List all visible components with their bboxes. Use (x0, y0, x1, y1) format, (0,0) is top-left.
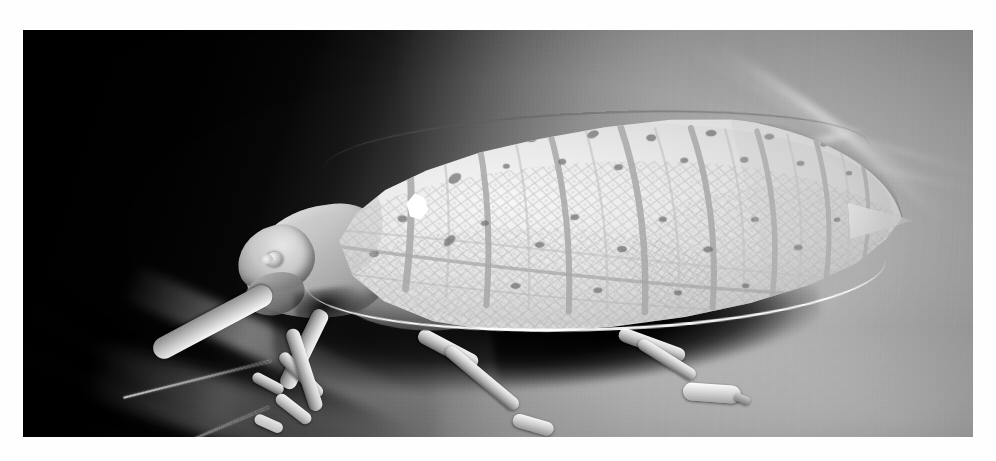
photograph-plate (23, 30, 973, 437)
midleg-tarsus (511, 412, 555, 437)
foreleg-claw (253, 412, 285, 434)
katydid-subject (23, 30, 973, 437)
antenna-lower (68, 406, 269, 437)
antenna-base (259, 254, 273, 264)
page-root (0, 0, 996, 461)
antenna-upper (123, 360, 271, 399)
hindleg-tarsus (682, 382, 741, 404)
hindleg-claw (734, 392, 752, 405)
foreleg-femur (149, 281, 276, 362)
